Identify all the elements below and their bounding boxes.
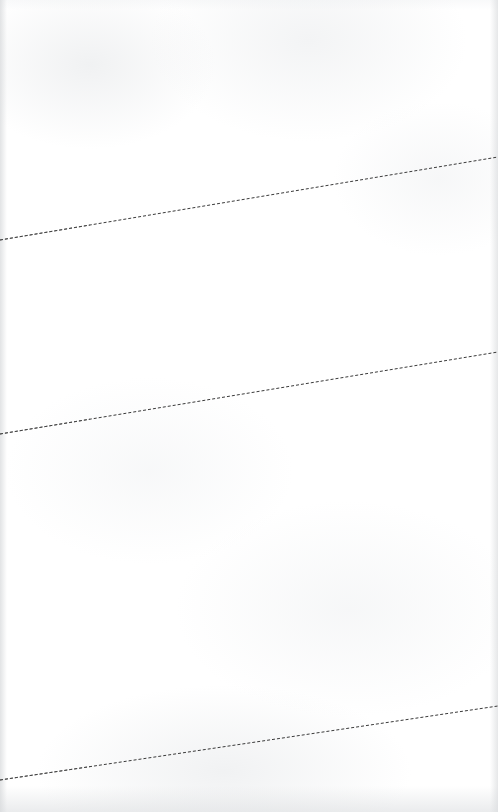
dashed-rule-3-left-fade bbox=[0, 767, 90, 780]
dashed-rule-2 bbox=[0, 352, 498, 434]
dashed-rule-1-left-fade bbox=[0, 225, 90, 240]
dashed-rules-layer bbox=[0, 0, 498, 812]
dashed-rules-svg bbox=[0, 0, 498, 812]
dashed-rule-1 bbox=[0, 157, 498, 240]
paper-texture bbox=[0, 0, 498, 812]
page-edge-vignette bbox=[0, 0, 498, 812]
scanned-page bbox=[0, 0, 498, 812]
dashed-rule-3 bbox=[0, 706, 498, 780]
dashed-rule-2-left-fade bbox=[0, 419, 90, 434]
